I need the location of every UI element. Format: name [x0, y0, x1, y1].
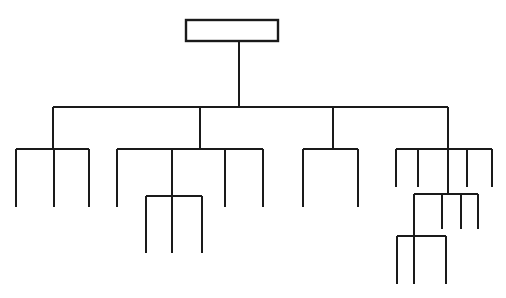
org-chart-diagram [0, 0, 506, 298]
root-node-box[interactable] [186, 20, 278, 41]
root-node[interactable] [186, 20, 278, 41]
org-chart-canvas [0, 0, 506, 298]
branch-connectors [16, 107, 492, 284]
